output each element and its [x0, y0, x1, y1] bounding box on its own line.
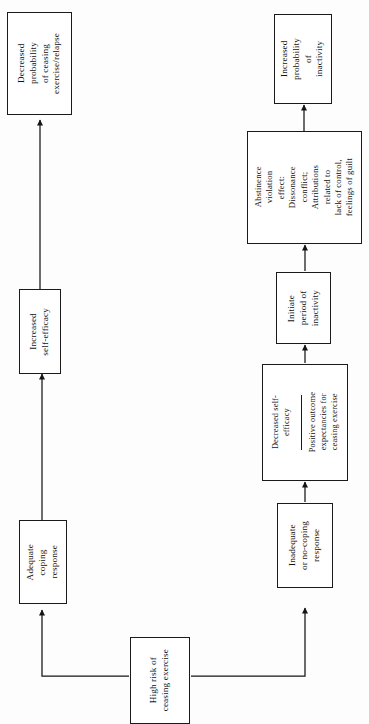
edge-highrisk-to-adequate	[42, 610, 129, 676]
node-label: Decreased self- efficacy	[271, 395, 293, 449]
cell-decreased-self-efficacy: Decreased self- efficacy	[263, 395, 302, 449]
node-label: Increased probability of inactivity	[279, 38, 326, 80]
node-abstinence-violation-effect: Abstinence violation effect: Dissonance …	[247, 131, 362, 244]
cell-positive-outcome-expectancies: Positive outcome expectancies for ceasin…	[302, 392, 347, 452]
node-label: Inadequate or no-coping response	[287, 521, 322, 570]
node-initiate-inactivity: Initiate period of inactivity	[276, 272, 331, 344]
node-increased-self-efficacy: Increased self-efficacy	[19, 289, 61, 374]
node-label: Positive outcome expectancies for ceasin…	[308, 392, 340, 452]
node-label: Decreased probability of ceasing exercis…	[16, 33, 63, 94]
node-label: Initiate period of inactivity	[286, 290, 321, 326]
node-label: Adequate coping response	[25, 544, 60, 580]
node-adequate-coping: Adequate coping response	[19, 520, 67, 604]
edge-highrisk-to-inadequate	[191, 608, 305, 676]
node-inadequate-coping: Inadequate or no-coping response	[277, 503, 333, 588]
node-label: Increased self-efficacy	[28, 308, 52, 356]
node-increased-prob-inactivity: Increased probability of inactivity	[274, 14, 332, 104]
diagram-canvas: Decreased probability of ceasing exercis…	[0, 0, 369, 724]
node-label: High risk of ceasing exercise	[148, 649, 172, 711]
node-label: Abstinence violation effect: Dissonance …	[253, 158, 356, 216]
node-decreased-prob-relapse: Decreased probability of ceasing exercis…	[7, 12, 72, 115]
node-efficacy-expectancy-group: Decreased self- efficacy Positive outcom…	[262, 364, 348, 481]
node-high-risk: High risk of ceasing exercise	[130, 637, 190, 724]
